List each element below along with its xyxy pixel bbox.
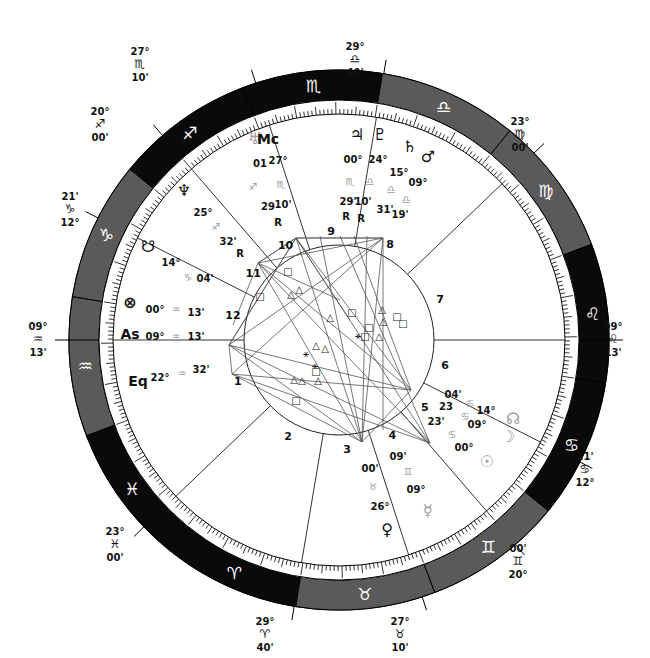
midheaven-sign-icon: ♏ — [277, 179, 286, 190]
cusp-minutes: 12° — [61, 217, 80, 228]
house-number-4: 4 — [389, 429, 397, 442]
trine-icon: △ — [290, 374, 298, 385]
cusp-11-label: 20°♐00' — [91, 106, 110, 143]
taurus-sign-icon: ♉ — [357, 584, 372, 604]
cusp-1-label: 09°♒13' — [29, 321, 48, 358]
midheaven-icon: Mc — [257, 131, 279, 147]
neptune-minutes: 32' — [220, 236, 237, 247]
cusp-3-label: 29°♈40' — [256, 616, 275, 653]
jupiter-degrees: 00° — [344, 154, 363, 165]
cusp-sign-icon: ♉ — [395, 627, 406, 641]
moon-sign-icon: ♋ — [461, 411, 470, 422]
cusp-degrees: 00' — [510, 543, 527, 554]
house-cusp-pointer-11 — [153, 125, 162, 136]
cusp-sign-icon: ♒ — [33, 332, 44, 346]
neptune-retrograde-icon: R — [236, 248, 244, 259]
uranus-sign-icon: ♐ — [249, 181, 258, 192]
cusp-minutes: 13' — [30, 347, 47, 358]
cusp-sign-icon: ♏ — [135, 57, 146, 71]
cusp-degrees: 09° — [604, 321, 623, 332]
cusp-sign-icon: ♊ — [513, 554, 524, 568]
cusp-minutes: 10' — [392, 642, 409, 653]
house-number-2: 2 — [284, 430, 292, 443]
equatorial-ascendant-degrees: 22° — [151, 372, 170, 383]
square-icon: □ — [255, 291, 264, 302]
mercury-icon: ☿ — [423, 501, 433, 520]
trine-icon: △ — [321, 343, 329, 354]
scorpio-sign-icon: ♏ — [306, 76, 321, 96]
equatorial-ascendant-sign-icon: ♒ — [178, 368, 187, 379]
trine-icon: △ — [378, 304, 386, 315]
south-node-icon: ☋ — [141, 237, 155, 256]
venus-degrees: 26° — [371, 501, 390, 512]
virgo-sign-icon: ♍ — [538, 181, 553, 201]
capricorn-sign-icon: ♑ — [99, 225, 114, 245]
house-cusp-pointer-8 — [534, 143, 544, 153]
cusp-minutes: 10' — [132, 72, 149, 83]
north-node-sign-icon: ♋ — [466, 398, 475, 409]
cusp-9-label: 29°♎40' — [346, 41, 365, 78]
ascendant-minutes: 13' — [188, 331, 205, 342]
trine-icon: △ — [375, 331, 383, 342]
cusp-sign-icon: ♓ — [110, 537, 121, 551]
mars-degrees: 09° — [409, 177, 428, 188]
south-node-sign-icon: ♑ — [184, 272, 193, 283]
cusp-6-label: 21'♋12° — [576, 451, 595, 488]
house-cusp-pointer-12 — [86, 212, 98, 218]
house-cusp-pointer-4 — [422, 597, 426, 610]
sextile-icon: ⚹ — [355, 330, 361, 341]
south-node-degrees: 14° — [162, 257, 181, 268]
pluto-minutes: 10' — [355, 196, 372, 207]
libra-sign-icon: ♎ — [436, 97, 451, 117]
pluto-retrograde-icon: R — [357, 213, 365, 224]
square-icon: □ — [347, 307, 356, 318]
sagittarius-sign-icon: ♐ — [182, 123, 197, 143]
cusp-degrees: 29° — [256, 616, 275, 627]
inner-aspect-circle — [244, 245, 434, 435]
sun-icon: ☉ — [480, 452, 494, 471]
cusp-degrees: 20° — [91, 106, 110, 117]
neptune-icon: ♆ — [177, 181, 191, 200]
house-cusp-pointer-10 — [251, 70, 255, 83]
ascendant-sign-icon: ♒ — [172, 331, 181, 342]
part-of-fortune-sign-icon: ♒ — [172, 304, 181, 315]
saturn-icon: ♄ — [403, 137, 417, 156]
cusp-minutes: 00' — [107, 552, 124, 563]
neptune-degrees: 25° — [194, 207, 213, 218]
cusp-minutes: 13' — [605, 347, 622, 358]
house-cusp-pointer-3 — [292, 606, 294, 620]
house-number-5: 5 — [421, 401, 429, 414]
midheaven-minutes: 10' — [275, 199, 292, 210]
cusp-degrees: 27° — [131, 46, 150, 57]
trine-icon: △ — [312, 340, 320, 351]
pluto-sign-icon: ♎ — [366, 176, 375, 187]
uranus-minutes: 29 — [261, 201, 275, 212]
house-cusp-pointer-9 — [384, 60, 386, 74]
cusp-sign-icon: ♍ — [515, 127, 526, 141]
cusp-minutes: 00' — [92, 132, 109, 143]
venus-minutes: 00' — [362, 463, 379, 474]
cusp-5-label: 00'♊20° — [509, 543, 528, 580]
cusp-minutes: 40' — [257, 642, 274, 653]
mars-icon: ♂ — [421, 147, 435, 166]
square-icon: □ — [398, 318, 407, 329]
house-number-8: 8 — [386, 238, 394, 251]
venus-icon: ♀ — [381, 520, 393, 539]
pluto-icon: ♇ — [373, 125, 387, 144]
sun-minutes: 23' — [428, 416, 445, 427]
cusp-degrees: 21' — [577, 451, 594, 462]
part-of-fortune-minutes: 13' — [188, 307, 205, 318]
ascendant-degrees: 09° — [146, 331, 165, 342]
mercury-minutes: 09' — [390, 451, 407, 462]
trine-icon: △ — [326, 312, 334, 323]
cusp-minutes: 00' — [512, 142, 529, 153]
square-icon: □ — [283, 266, 292, 277]
house-number-12: 12 — [225, 309, 240, 322]
aries-sign-icon: ♈ — [227, 563, 242, 583]
trine-icon: △ — [287, 289, 295, 300]
cusp-sign-icon: ♎ — [350, 52, 361, 66]
house-number-7: 7 — [436, 293, 444, 306]
cusp-degrees: 23° — [511, 116, 530, 127]
equatorial-ascendant-minutes: 32' — [193, 364, 210, 375]
mercury-degrees: 09° — [407, 484, 426, 495]
